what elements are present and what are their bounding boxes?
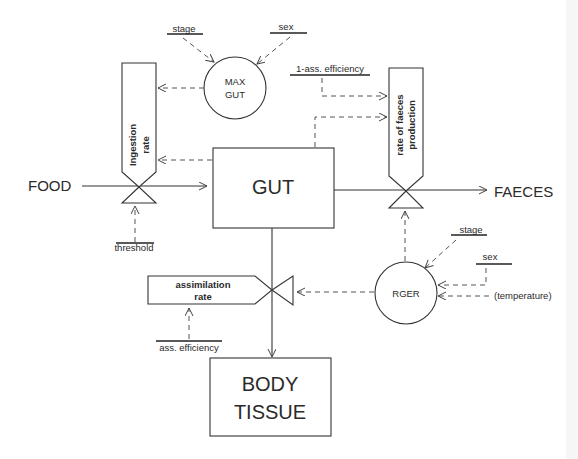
flow-diagram: Ingestion rate rate of faeces production… [0,0,578,459]
max-gut-label-2: GUT [225,89,245,100]
max-gut-auxiliary: MAX GUT [204,57,266,119]
max-gut-label-1: MAX [225,76,246,87]
driver-ass-efficiency: ass. efficiency [156,341,222,353]
svg-text:1-ass. efficiency: 1-ass. efficiency [296,63,364,74]
assimilation-rate-valve: assimilation rate [148,276,293,305]
svg-text:stage: stage [172,23,195,34]
driver-stage-right: stage [451,224,487,235]
faeces-rate-label-1: rate of faeces [394,94,405,155]
gut-label: GUT [252,176,294,198]
rger-auxiliary: RGER [375,262,437,324]
driver-one-minus-ass-efficiency: 1-ass. efficiency [290,63,370,75]
svg-text:sex: sex [483,251,498,262]
body-tissue-stock: BODY TISSUE [210,358,331,436]
faeces-rate-label-2: production [406,100,417,150]
assimilation-rate-label-1: assimilation [176,279,231,290]
faeces-rate-valve: rate of faeces production [389,68,423,208]
body-tissue-label-1: BODY [242,373,299,395]
svg-text:sex: sex [279,21,294,32]
rger-label: RGER [392,288,420,299]
driver-temperature: (temperature) [494,290,552,301]
driver-threshold: threshold [114,242,154,253]
ingestion-rate-label-1: Ingestion [127,124,138,166]
driver-stage-top: stage [167,23,203,34]
ingestion-rate-valve: Ingestion rate [122,63,156,203]
gut-stock: GUT [213,148,334,228]
faeces-label: FAECES [494,183,553,200]
assimilation-rate-label-2: rate [194,291,211,302]
food-label: FOOD [28,177,71,194]
svg-text:ass. efficiency: ass. efficiency [159,342,219,353]
driver-sex-right: sex [476,251,512,264]
svg-text:stage: stage [459,224,482,235]
driver-sex-top: sex [270,21,307,33]
ingestion-rate-label-2: rate [140,136,151,153]
body-tissue-label-2: TISSUE [234,401,306,423]
